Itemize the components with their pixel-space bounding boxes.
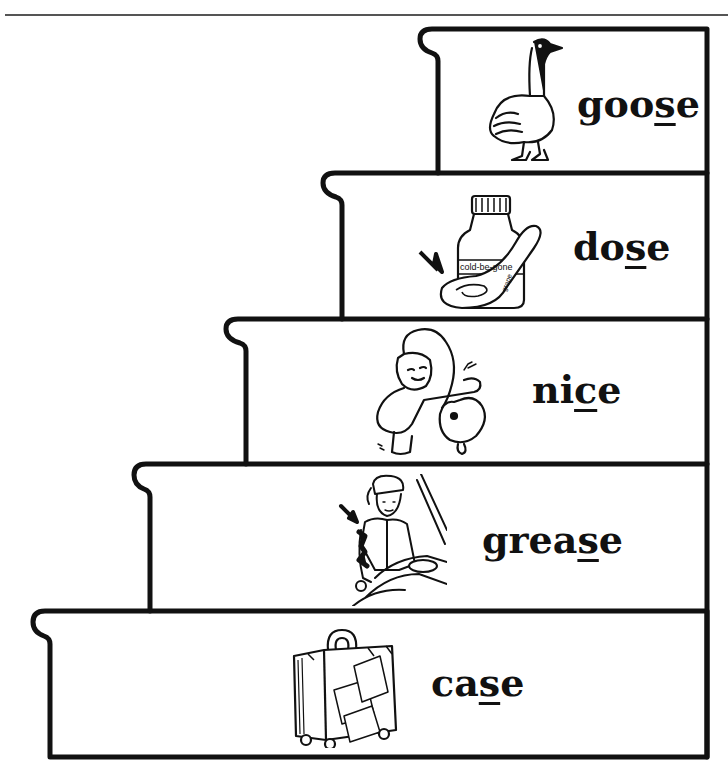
word-suffix: e: [676, 81, 700, 126]
word-suffix: e: [599, 517, 623, 562]
target-letter: c: [574, 367, 597, 412]
medicine-bottle-spoon-icon: cold-be-gone grape: [412, 190, 562, 314]
target-letter: s: [654, 81, 675, 126]
mechanic-car-icon: [335, 474, 447, 606]
target-letter: s: [577, 517, 598, 562]
bottle-label: cold-be-gone: [460, 262, 513, 272]
word-prefix: ca: [431, 660, 479, 705]
word-case: case: [431, 664, 524, 702]
word-prefix: goo: [577, 81, 654, 126]
target-letter: s: [479, 660, 500, 705]
word-suffix: e: [500, 660, 524, 705]
word-goose: goose: [577, 85, 700, 123]
word-suffix: e: [597, 367, 621, 412]
girl-petting-dog-icon: [364, 324, 500, 460]
word-prefix: ni: [532, 367, 574, 412]
goose-icon: [482, 34, 572, 168]
word-grease: grease: [482, 521, 623, 559]
word-prefix: do: [573, 224, 625, 269]
word-prefix: grea: [482, 517, 577, 562]
word-suffix: e: [646, 224, 670, 269]
word-nice: nice: [532, 371, 621, 409]
target-letter: s: [625, 224, 646, 269]
word-dose: dose: [573, 228, 671, 266]
suitcase-icon: [288, 626, 398, 748]
